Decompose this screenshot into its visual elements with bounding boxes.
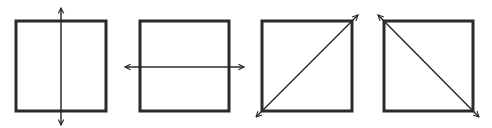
figure-horizontal (125, 21, 244, 111)
symmetry-diagram (0, 0, 492, 128)
figure-vertical (16, 8, 106, 125)
figure-diagonal-down (378, 15, 479, 117)
square-horizontal (140, 21, 229, 111)
double-arrow-icon (378, 15, 479, 117)
figure-diagonal-up (256, 15, 358, 117)
double-arrow-icon (256, 15, 358, 117)
